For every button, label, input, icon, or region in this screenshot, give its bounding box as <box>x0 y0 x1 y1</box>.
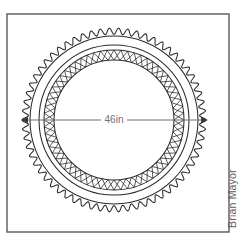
drawing-page: 46in Brian Mayor <box>0 0 245 242</box>
dimension-arrow-right <box>201 117 208 123</box>
author-credit: Brian Mayor <box>226 169 238 228</box>
dimension-label: 46in <box>105 114 124 125</box>
technical-drawing: 46in Brian Mayor <box>0 0 245 242</box>
